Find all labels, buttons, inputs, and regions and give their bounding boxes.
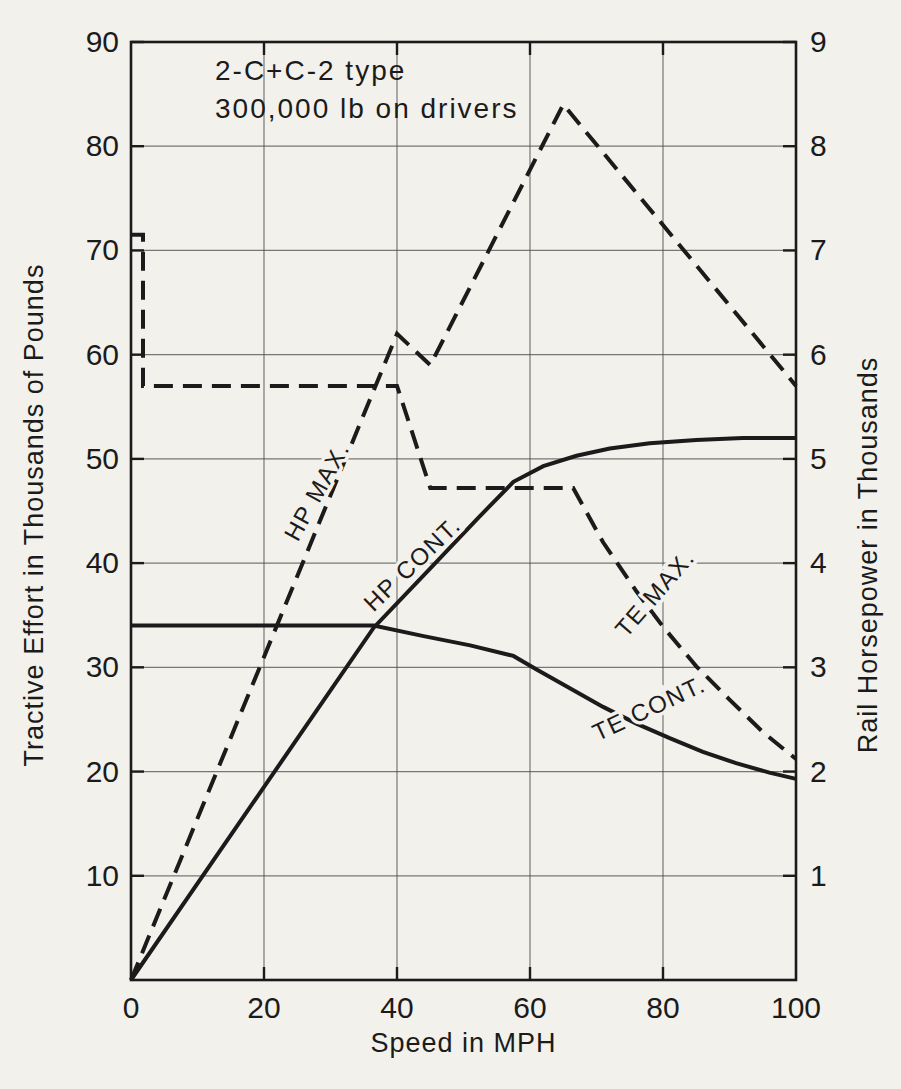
- right-axis-tick-label: 7: [810, 233, 827, 266]
- left-axis-title: Tractive Effort in Thousands of Pounds: [19, 264, 50, 767]
- right-axis-tick-label: 4: [810, 546, 827, 579]
- locomotive-performance-chart: TE MAX.TE CONT.HP MAX.HP CONT.1020304050…: [0, 0, 901, 1089]
- x-axis-tick-label: 20: [247, 991, 280, 1024]
- left-axis-tick-label: 70: [86, 233, 119, 266]
- x-axis-tick-label: 100: [771, 991, 821, 1024]
- x-axis-title: Speed in MPH: [131, 1028, 796, 1059]
- left-axis-tick-label: 60: [86, 338, 119, 371]
- right-axis-tick-label: 2: [810, 755, 827, 788]
- curve-hp-max: [131, 105, 796, 981]
- left-axis-tick-label: 10: [86, 859, 119, 892]
- left-axis-tick-label: 90: [86, 25, 119, 58]
- left-axis-tick-label: 50: [86, 442, 119, 475]
- curve-label-te-max: TE MAX.: [610, 544, 700, 642]
- right-axis-tick-label: 9: [810, 25, 827, 58]
- right-axis-tick-label: 6: [810, 338, 827, 371]
- x-axis-tick-label: 40: [380, 991, 413, 1024]
- left-axis-tick-label: 20: [86, 755, 119, 788]
- curve-hp-cont: [131, 438, 796, 980]
- plot-border: [131, 42, 796, 980]
- x-axis-tick-label: 60: [513, 991, 546, 1024]
- right-axis-tick-label: 3: [810, 650, 827, 683]
- curve-te-cont: [131, 626, 796, 779]
- right-axis-tick-label: 5: [810, 442, 827, 475]
- x-axis-tick-label: 80: [646, 991, 679, 1024]
- curve-label-hp-max: HP MAX.: [278, 437, 354, 545]
- chart-annotation-weight: 300,000 lb on drivers: [215, 93, 519, 125]
- x-axis-tick-label: 0: [123, 991, 140, 1024]
- left-axis-tick-label: 30: [86, 650, 119, 683]
- right-axis-tick-label: 1: [810, 859, 827, 892]
- chart-plot-area: TE MAX.TE CONT.HP MAX.HP CONT.1020304050…: [0, 0, 901, 1089]
- right-axis-title: Rail Horsepower in Thousands: [853, 357, 884, 754]
- left-axis-tick-label: 40: [86, 546, 119, 579]
- left-axis-tick-label: 80: [86, 129, 119, 162]
- chart-annotation-type: 2-C+C-2 type: [215, 55, 406, 87]
- right-axis-tick-label: 8: [810, 129, 827, 162]
